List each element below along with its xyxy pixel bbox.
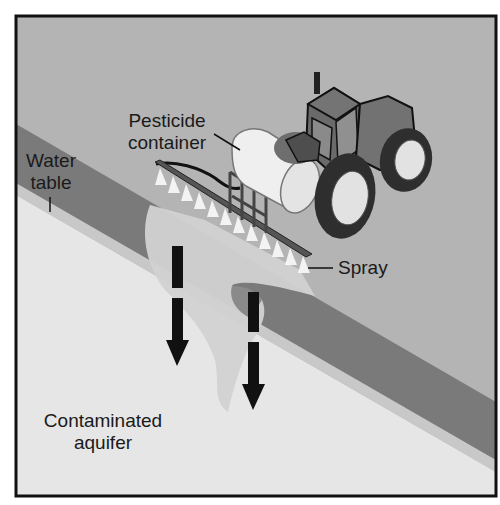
contaminated-aquifer-line2: aquifer xyxy=(36,432,170,454)
water-table-line2: table xyxy=(20,172,82,194)
pesticide-container-label: Pesticide container xyxy=(112,110,222,154)
pesticide-container-line1: Pesticide xyxy=(112,110,222,132)
water-table-label: Water table xyxy=(20,150,82,194)
spray-text: Spray xyxy=(338,257,388,278)
contaminated-aquifer-line1: Contaminated xyxy=(36,410,170,432)
spray-label: Spray xyxy=(338,257,388,279)
pesticide-container-line2: container xyxy=(112,132,222,154)
water-table-line1: Water xyxy=(20,150,82,172)
contaminated-aquifer-label: Contaminated aquifer xyxy=(36,410,170,454)
